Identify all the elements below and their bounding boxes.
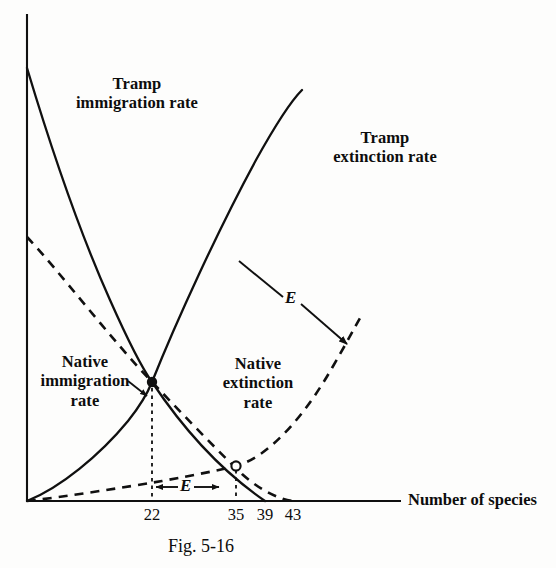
figure-caption: Fig. 5-16	[168, 536, 234, 557]
curve-tramp-immigration-rate	[27, 68, 265, 501]
equilibrium-marker-22	[147, 377, 157, 387]
leader-line-e-upper-right	[301, 304, 347, 344]
label-native-immigration-rate: Native immigration rate	[25, 352, 145, 410]
curve-tramp-extinction-rate	[27, 90, 302, 501]
x-axis-title: Number of species	[408, 490, 537, 510]
label-e-lower: E	[180, 476, 191, 496]
tick-label-43: 43	[273, 505, 313, 525]
label-native-extinction-rate: Native extinction rate	[199, 354, 317, 412]
label-tramp-immigration-rate: Tramp immigration rate	[62, 74, 212, 113]
leader-line-e-upper-left	[239, 261, 283, 297]
tick-label-22: 22	[132, 505, 172, 525]
equilibrium-marker-35	[231, 461, 240, 470]
label-tramp-extinction-rate: Tramp extinction rate	[310, 128, 460, 167]
figure-container: Tramp immigration rate Tramp extinction …	[0, 0, 556, 568]
label-e-upper: E	[285, 288, 296, 308]
